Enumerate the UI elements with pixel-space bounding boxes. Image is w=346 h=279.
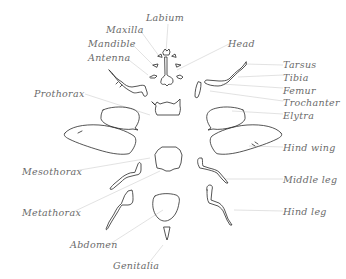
- label-metathorax: Metathorax: [22, 208, 81, 218]
- label-hind-wing: Hind wing: [283, 143, 336, 153]
- label-mesothorax: Mesothorax: [22, 167, 82, 177]
- label-hind-leg: Hind leg: [283, 207, 327, 217]
- abdomen-shape: [153, 194, 180, 221]
- label-trochanter: Trochanter: [283, 98, 340, 108]
- label-prothorax: Prothorax: [34, 89, 85, 99]
- elytra-left: [101, 107, 139, 130]
- label-abdomen: Abdomen: [70, 240, 118, 250]
- hind-leg-right: [207, 185, 232, 225]
- head-shape: [161, 57, 173, 86]
- hind-leg-left: [106, 190, 133, 230]
- label-tibia: Tibia: [283, 73, 309, 83]
- antenna-shapes: [150, 75, 183, 79]
- middle-leg-right: [198, 158, 228, 183]
- diagram-artwork: [0, 0, 346, 279]
- front-leg-left: [109, 70, 147, 96]
- prothorax-shape: [152, 99, 180, 115]
- label-femur: Femur: [283, 86, 316, 96]
- label-tarsus: Tarsus: [283, 60, 316, 70]
- label-labium: Labium: [146, 13, 184, 23]
- maxilla-shapes: [158, 54, 176, 57]
- label-middle-leg: Middle leg: [283, 175, 337, 185]
- label-elytra: Elytra: [283, 111, 314, 121]
- beetle-anatomy-diagram: Labium Maxilla Mandible Antenna Head Tar…: [0, 0, 346, 279]
- label-maxilla: Maxilla: [106, 25, 144, 35]
- label-head: Head: [228, 39, 255, 49]
- label-antenna: Antenna: [88, 53, 130, 63]
- label-genitalia: Genitalia: [113, 261, 159, 271]
- genitalia-shape: [164, 227, 170, 240]
- elytra-right: [207, 107, 245, 130]
- label-mandible: Mandible: [88, 39, 136, 49]
- mesothorax-shape: [155, 147, 182, 171]
- labium-shape: [163, 49, 170, 55]
- middle-leg-left: [110, 163, 141, 190]
